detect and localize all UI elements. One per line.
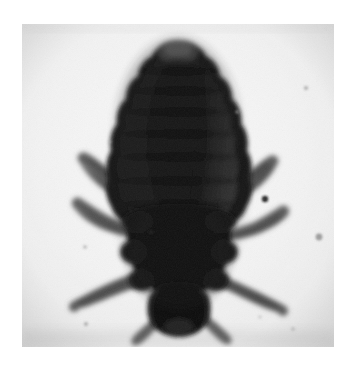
matte-bottom	[0, 347, 356, 374]
film-grain-overlay	[22, 24, 334, 347]
matte-left	[0, 0, 22, 374]
screenshot-root	[0, 0, 356, 374]
matte-right	[334, 0, 356, 374]
specimen-photograph	[22, 24, 334, 347]
photo-canvas	[22, 24, 334, 347]
matte-top	[0, 0, 356, 24]
